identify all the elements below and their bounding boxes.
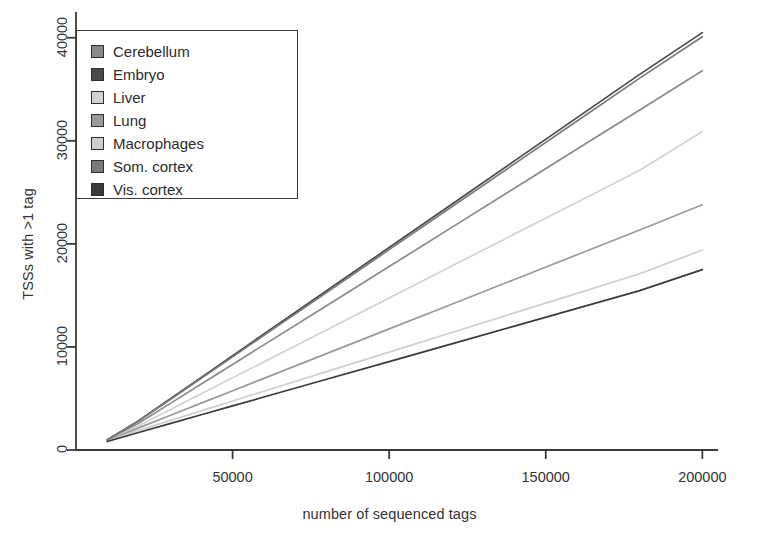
legend-swatch-icon (91, 137, 104, 150)
y-tick-label: 20000 (54, 185, 70, 301)
y-axis-title: TSSs with >1 tag (20, 164, 36, 324)
legend-label: Macrophages (113, 136, 204, 151)
y-tick-label: 10000 (54, 288, 70, 404)
legend-label: Embryo (113, 67, 165, 82)
legend-swatch-icon (91, 68, 104, 81)
legend-swatch-icon (91, 183, 104, 196)
series-line-macrophages (107, 250, 702, 441)
x-tick-label: 200000 (642, 469, 762, 485)
legend-label: Lung (113, 113, 146, 128)
legend-label: Vis. cortex (113, 182, 183, 197)
legend-item: Macrophages (91, 132, 291, 155)
series-line-lung (107, 205, 702, 441)
legend-swatch-icon (91, 45, 104, 58)
legend-item: Cerebellum (91, 40, 291, 63)
legend-swatch-icon (91, 91, 104, 104)
legend-item: Lung (91, 109, 291, 132)
legend-swatch-icon (91, 114, 104, 127)
y-tick-label: 30000 (54, 82, 70, 198)
legend-item: Vis. cortex (91, 178, 291, 201)
y-tick-label: 0 (54, 391, 70, 507)
x-tick-label: 50000 (173, 469, 293, 485)
legend-label: Som. cortex (113, 159, 193, 174)
legend-label: Cerebellum (113, 44, 190, 59)
legend: CerebellumEmbryoLiverLungMacrophagesSom.… (76, 30, 298, 199)
saturation-curve-figure: TSSs with >1 tag number of sequenced tag… (0, 0, 779, 536)
x-tick-label: 150000 (486, 469, 606, 485)
x-tick-label: 100000 (329, 469, 449, 485)
legend-swatch-icon (91, 160, 104, 173)
series-line-vis-cortex (107, 270, 702, 442)
legend-label: Liver (113, 90, 146, 105)
legend-item: Embryo (91, 63, 291, 86)
legend-item-list: CerebellumEmbryoLiverLungMacrophagesSom.… (91, 40, 291, 201)
y-tick-label: 40000 (54, 0, 70, 95)
legend-item: Liver (91, 86, 291, 109)
legend-item: Som. cortex (91, 155, 291, 178)
x-axis-title: number of sequenced tags (0, 506, 779, 522)
